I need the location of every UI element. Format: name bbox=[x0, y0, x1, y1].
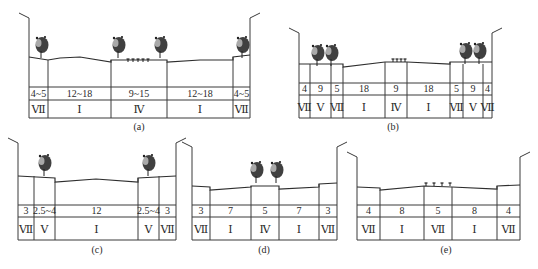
lane-class-label: Ⅶ bbox=[479, 101, 494, 113]
lane-width-label: 7 bbox=[228, 205, 233, 216]
diagram-caption: (c) bbox=[91, 244, 102, 256]
lane-width-label: 3 bbox=[326, 205, 331, 216]
lane-class-label: Ⅴ bbox=[144, 223, 154, 235]
left-building-eave bbox=[8, 138, 18, 143]
right-building-eave bbox=[176, 138, 186, 143]
cross-section-c: 3Ⅶ2.5~4Ⅴ12Ⅰ2.5~4Ⅴ3Ⅶ(c) bbox=[8, 138, 186, 256]
lane-class-label: Ⅶ bbox=[233, 103, 248, 115]
cross-section-d: 3Ⅶ7Ⅰ5Ⅳ7Ⅰ3Ⅶ(d) bbox=[182, 142, 347, 256]
lane-width-label: 9 bbox=[394, 83, 399, 94]
tree-icon bbox=[113, 36, 126, 58]
lane-width-label: 8 bbox=[400, 205, 405, 216]
lane-class-label: Ⅶ bbox=[360, 223, 375, 235]
lamp-marker-icon bbox=[433, 183, 436, 186]
lane-width-label: 3 bbox=[165, 205, 170, 216]
tree-icon bbox=[251, 161, 264, 183]
lane-width-label: 8 bbox=[472, 205, 477, 216]
lane-class-label: Ⅰ bbox=[94, 223, 98, 235]
lane-width-label: 9~15 bbox=[129, 88, 149, 99]
lane-class-label: Ⅳ bbox=[391, 101, 403, 113]
tree-icon bbox=[39, 154, 52, 176]
lane-class-label: Ⅶ bbox=[320, 223, 335, 235]
lane-width-label: 18 bbox=[359, 83, 369, 94]
lane-class-label: Ⅰ bbox=[297, 223, 301, 235]
lane-width-label: 5 bbox=[335, 83, 340, 94]
lamp-marker-icon bbox=[449, 183, 452, 186]
lane-class-label: Ⅶ bbox=[329, 101, 344, 113]
lane-class-label: Ⅶ bbox=[30, 103, 45, 115]
lane-width-label: 5 bbox=[436, 205, 441, 216]
lane-width-label: 4 bbox=[485, 83, 490, 94]
tree-icon bbox=[143, 154, 156, 176]
lane-width-label: 4 bbox=[366, 205, 371, 216]
cross-section-a: 4~5Ⅶ12~18Ⅰ9~15Ⅳ12~18Ⅰ4~5Ⅶ(a) bbox=[19, 13, 260, 133]
diagram-caption: (e) bbox=[440, 244, 451, 256]
lane-class-label: Ⅴ bbox=[468, 101, 478, 113]
lane-width-label: 2.5~4 bbox=[33, 205, 56, 216]
left-building-eave bbox=[19, 13, 29, 18]
lane-width-label: 9 bbox=[318, 83, 323, 94]
lane-width-label: 18 bbox=[424, 83, 434, 94]
lane-width-label: 12~18 bbox=[187, 88, 212, 99]
tree-icon bbox=[474, 42, 487, 64]
lane-class-label: Ⅶ bbox=[159, 223, 174, 235]
road-cross-section-figure: 4~5Ⅶ12~18Ⅰ9~15Ⅳ12~18Ⅰ4~5Ⅶ(a)4Ⅶ9Ⅴ5Ⅶ18Ⅰ9Ⅳ1… bbox=[0, 0, 538, 269]
tree-icon bbox=[155, 36, 168, 58]
lane-class-label: Ⅰ bbox=[228, 223, 232, 235]
lane-class-label: Ⅶ bbox=[18, 223, 33, 235]
lane-class-label: Ⅰ bbox=[426, 101, 430, 113]
lane-class-label: Ⅶ bbox=[430, 223, 445, 235]
lane-width-label: 5 bbox=[454, 83, 459, 94]
left-building-eave bbox=[289, 28, 299, 33]
left-building-eave bbox=[347, 152, 357, 157]
lane-width-label: 4 bbox=[506, 205, 511, 216]
road-surface-profile bbox=[192, 183, 337, 190]
cross-section-b: 4Ⅶ9Ⅴ5Ⅶ18Ⅰ9Ⅳ18Ⅰ5Ⅶ9Ⅴ4Ⅶ(b) bbox=[289, 28, 502, 133]
diagram-caption: (d) bbox=[258, 244, 270, 256]
lane-class-label: Ⅰ bbox=[198, 103, 202, 115]
tree-icon bbox=[312, 44, 325, 66]
lamp-marker-icon bbox=[441, 183, 444, 186]
lane-width-label: 9 bbox=[471, 83, 476, 94]
lane-class-label: Ⅴ bbox=[316, 101, 326, 113]
diagram-caption: (b) bbox=[387, 121, 399, 133]
lane-width-label: 4~5 bbox=[234, 88, 249, 99]
lane-width-label: 4~5 bbox=[31, 88, 46, 99]
lane-class-label: Ⅶ bbox=[193, 223, 208, 235]
lane-class-label: Ⅶ bbox=[500, 223, 515, 235]
lane-class-label: Ⅰ bbox=[362, 101, 366, 113]
lane-class-label: Ⅶ bbox=[296, 101, 311, 113]
lane-width-label: 4 bbox=[302, 83, 307, 94]
right-building-eave bbox=[520, 152, 530, 157]
lane-width-label: 12~18 bbox=[67, 88, 92, 99]
right-building-eave bbox=[337, 142, 347, 147]
tree-icon bbox=[36, 36, 49, 58]
road-surface-profile bbox=[18, 176, 176, 182]
left-building-eave bbox=[182, 142, 192, 147]
tree-icon bbox=[271, 161, 284, 183]
lane-class-label: Ⅰ bbox=[77, 103, 81, 115]
right-building-eave bbox=[492, 28, 502, 33]
lane-class-label: Ⅴ bbox=[40, 223, 50, 235]
cross-section-e: 4Ⅶ8Ⅰ5Ⅶ8Ⅰ4Ⅶ(e) bbox=[347, 152, 530, 256]
lane-width-label: 12 bbox=[92, 205, 102, 216]
right-building-eave bbox=[250, 13, 260, 18]
lane-width-label: 3 bbox=[199, 205, 204, 216]
lane-width-label: 3 bbox=[24, 205, 29, 216]
lane-width-label: 7 bbox=[297, 205, 302, 216]
lane-width-label: 2.5~4 bbox=[137, 205, 160, 216]
tree-icon bbox=[326, 44, 339, 66]
diagram-caption: (a) bbox=[133, 121, 144, 133]
lane-width-label: 5 bbox=[263, 205, 268, 216]
lane-class-label: Ⅳ bbox=[260, 223, 272, 235]
diagram-canvas: 4~5Ⅶ12~18Ⅰ9~15Ⅳ12~18Ⅰ4~5Ⅶ(a)4Ⅶ9Ⅴ5Ⅶ18Ⅰ9Ⅳ1… bbox=[0, 0, 538, 269]
lane-class-label: Ⅰ bbox=[400, 223, 404, 235]
tree-icon bbox=[460, 42, 473, 64]
lane-class-label: Ⅶ bbox=[448, 101, 463, 113]
lane-class-label: Ⅳ bbox=[134, 103, 146, 115]
lane-class-label: Ⅰ bbox=[472, 223, 476, 235]
road-surface-profile bbox=[357, 185, 520, 190]
